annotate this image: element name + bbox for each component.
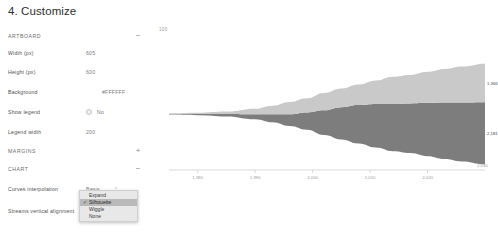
field-row-legend-width[interactable]: Legend width 200 — [8, 126, 148, 138]
stream-band-value-label: 1,366 — [487, 81, 498, 86]
streamgraph-svg: 1,9801,9902,0002,0102,020 2,1811,366 2,0… — [155, 22, 498, 197]
field-value-width[interactable]: 605 — [86, 50, 95, 56]
x-axis-tick-label: 2,020 — [422, 175, 433, 180]
section-header-margins[interactable]: MARGINS + — [8, 145, 142, 157]
field-label-legend-width: Legend width — [8, 129, 86, 135]
field-value-height[interactable]: 600 — [86, 69, 95, 75]
collapse-icon-artboard[interactable]: − — [134, 32, 142, 40]
x-axis-ticks: 1,9801,9902,0002,0102,020 — [192, 170, 433, 180]
x-axis-tick-label: 1,980 — [192, 175, 203, 180]
stream-bands — [169, 64, 485, 164]
dropdown-option-expand[interactable]: Expand — [80, 192, 137, 199]
field-label-height: Height (px) — [8, 69, 86, 75]
expand-icon-margins[interactable]: + — [134, 147, 142, 155]
stream-band-value-label: 2,181 — [487, 131, 498, 136]
stream-band-series-a — [169, 102, 485, 164]
dropdown-option-label: None — [89, 213, 101, 220]
section-header-chart[interactable]: CHART − — [8, 163, 142, 175]
x-axis-end-caption: 2,030 — [477, 163, 488, 168]
chart-preview: 100 1,9801,9902,0002,0102,020 2,1811,366… — [155, 22, 498, 197]
x-axis-tick-label: 2,000 — [307, 175, 318, 180]
field-row-height[interactable]: Height (px) 600 — [8, 66, 148, 78]
stream-band-labels: 2,1811,366 — [487, 81, 498, 136]
toggle-icon-show-legend[interactable] — [86, 109, 92, 115]
field-label-width: Width (px) — [8, 50, 86, 56]
dropdown-option-wiggle[interactable]: Wiggle — [80, 206, 137, 213]
x-axis-tick-label: 2,010 — [365, 175, 376, 180]
section-label-chart: CHART — [8, 166, 29, 172]
page-title: 4. Customize — [8, 5, 76, 17]
x-axis-tick-label: 1,990 — [250, 175, 261, 180]
field-row-show-legend[interactable]: Show legend No — [8, 106, 148, 118]
dropdown-menu-streams-vertical-alignment[interactable]: Expand ✓ Silhouette Wiggle None — [79, 190, 138, 222]
customize-screen: 4. Customize ARTBOARD − Width (px) 605 H… — [0, 0, 498, 235]
dropdown-option-label: Expand — [89, 192, 106, 199]
dropdown-option-silhouette[interactable]: ✓ Silhouette — [80, 199, 137, 206]
field-row-width[interactable]: Width (px) 605 — [8, 47, 148, 59]
dropdown-option-label: Wiggle — [89, 206, 104, 213]
dropdown-option-label: Silhouette — [89, 199, 111, 206]
field-value-background[interactable]: #FFFFFF — [86, 89, 125, 95]
section-label-artboard: ARTBOARD — [8, 33, 41, 39]
field-label-background: Background — [8, 89, 86, 95]
field-value-legend-width[interactable]: 200 — [86, 129, 95, 135]
check-icon-silhouette: ✓ — [83, 199, 87, 206]
field-label-show-legend: Show legend — [8, 109, 86, 115]
section-header-artboard[interactable]: ARTBOARD − — [8, 30, 142, 42]
field-label-curves-interpolation: Curves interpolation — [8, 186, 86, 192]
field-row-background[interactable]: Background #FFFFFF — [8, 86, 148, 98]
section-label-margins: MARGINS — [8, 148, 36, 154]
field-value-show-legend[interactable]: No — [97, 109, 104, 115]
dropdown-option-none[interactable]: None — [80, 213, 137, 220]
collapse-icon-chart[interactable]: − — [134, 165, 142, 173]
